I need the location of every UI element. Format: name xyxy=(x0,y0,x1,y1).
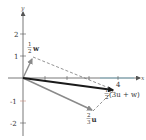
label-two-thirds-u-var: u xyxy=(92,115,97,124)
svg-text:2: 2 xyxy=(87,112,91,118)
vector-half-w xyxy=(23,59,32,78)
x-tick-label-4: 4 xyxy=(116,81,121,89)
label-half-w-var: w xyxy=(32,44,40,53)
y-axis-label: y xyxy=(20,4,25,12)
y-tick-label-2: 2 xyxy=(14,31,18,39)
svg-text:2: 2 xyxy=(105,94,109,100)
y-axis: y 2 1 -1 -2 xyxy=(10,4,26,136)
svg-text:3: 3 xyxy=(87,119,91,125)
label-two-thirds-u: 2 3 u xyxy=(87,112,97,125)
y-tick-label-1: 1 xyxy=(14,53,18,61)
label-half-3u-plus-w-expr: (3u + w) xyxy=(109,91,140,99)
x-axis: x 4 xyxy=(8,74,145,89)
label-half-w: 1 2 w xyxy=(28,41,41,54)
svg-text:2: 2 xyxy=(28,48,32,54)
y-tick-label-neg1: -1 xyxy=(10,98,17,106)
svg-text:1: 1 xyxy=(105,87,109,93)
y-tick-label-neg2: -2 xyxy=(10,120,17,128)
x-axis-label: x xyxy=(141,74,145,81)
svg-text:1: 1 xyxy=(28,41,32,47)
vector-diagram: x 4 y 2 1 -1 -2 1 2 w 1 xyxy=(0,0,146,140)
